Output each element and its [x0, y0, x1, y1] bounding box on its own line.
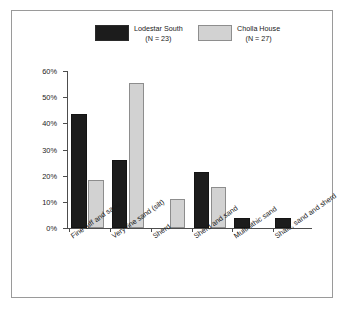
y-tick-label: 0% [46, 224, 57, 233]
bar [112, 160, 128, 228]
plot-area: 0%10%20%30%40%50%60% [67, 71, 312, 228]
bar [71, 114, 87, 228]
bar [129, 83, 145, 228]
y-tick-mark: 0% [63, 228, 67, 229]
y-tick-label: 10% [42, 197, 57, 206]
y-tick-mark: 60% [63, 71, 67, 72]
chart-legend: Lodestar South (N = 23) Cholla House (N … [95, 24, 295, 54]
y-tick-label: 60% [42, 67, 57, 76]
legend-entry-lodestar-south: Lodestar South (N = 23) [95, 24, 183, 43]
legend-entry-cholla-house: Cholla House (N = 27) [198, 24, 280, 43]
y-tick-label: 20% [42, 171, 57, 180]
legend-swatch-cholla-house [198, 25, 232, 41]
y-tick-label: 40% [42, 119, 57, 128]
y-tick-mark: 50% [63, 97, 67, 98]
y-tick-mark: 40% [63, 123, 67, 124]
y-tick-label: 50% [42, 93, 57, 102]
y-tick-mark: 20% [63, 176, 67, 177]
bar [194, 172, 210, 228]
y-tick-mark: 30% [63, 150, 67, 151]
y-tick-mark: 10% [63, 202, 67, 203]
legend-series-count: (N = 23) [134, 34, 183, 44]
legend-label-cholla-house: Cholla House (N = 27) [237, 24, 280, 43]
legend-label-lodestar-south: Lodestar South (N = 23) [134, 24, 183, 43]
legend-series-name: Lodestar South [134, 24, 183, 33]
y-axis-line [67, 71, 68, 228]
y-tick-label: 30% [42, 145, 57, 154]
legend-series-name: Cholla House [237, 24, 280, 33]
legend-swatch-lodestar-south [95, 25, 129, 41]
chart-figure: Lodestar South (N = 23) Cholla House (N … [0, 0, 346, 311]
legend-series-count: (N = 27) [237, 34, 280, 44]
bar [170, 199, 186, 228]
x-axis-line [67, 228, 312, 229]
